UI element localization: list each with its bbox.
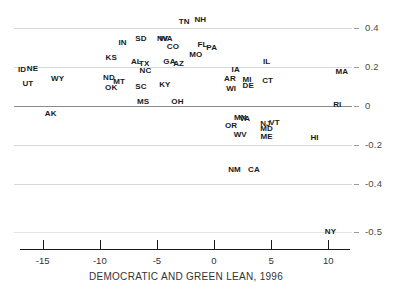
data-point-hi: HI bbox=[310, 134, 318, 142]
data-point-ky: KY bbox=[159, 81, 170, 89]
data-point-ny: NY bbox=[325, 228, 336, 236]
data-point-sc: SC bbox=[135, 83, 146, 91]
data-point-pa: PA bbox=[206, 44, 217, 52]
data-point-ok: OK bbox=[105, 84, 117, 92]
data-point-tn: TN bbox=[179, 18, 190, 26]
y-axis-tick bbox=[354, 28, 359, 29]
data-point-ca: CA bbox=[248, 166, 260, 174]
data-point-ks: KS bbox=[106, 54, 117, 62]
data-point-nc: NC bbox=[140, 67, 152, 75]
data-point-il: IL bbox=[263, 58, 270, 66]
x-axis-tick bbox=[157, 240, 158, 249]
x-axis-tick-label: 0 bbox=[211, 255, 216, 266]
data-point-az: AZ bbox=[173, 60, 184, 68]
x-axis-line bbox=[20, 249, 350, 250]
x-axis-title: DEMOCRATIC AND GREEN LEAN, 1996 bbox=[89, 271, 283, 282]
data-point-mo: MO bbox=[189, 51, 202, 59]
x-axis-tick-label: -5 bbox=[153, 255, 161, 266]
y-axis-tick bbox=[354, 184, 359, 185]
y-axis-tick bbox=[354, 145, 359, 146]
data-point-in: IN bbox=[119, 39, 127, 47]
data-point-ar: AR bbox=[224, 75, 236, 83]
gridline-y-neg0p4 bbox=[14, 184, 352, 185]
data-point-nm: NM bbox=[228, 166, 241, 174]
x-axis-tick bbox=[271, 240, 272, 249]
data-point-wv: WV bbox=[234, 131, 247, 139]
plot-area: 0.40.20-0.2-0.4-0.5TNNHSDINNVWACOFLPAKSM… bbox=[0, 0, 407, 293]
data-point-ri: RI bbox=[333, 101, 341, 109]
scatter-chart: 0.40.20-0.2-0.4-0.5TNNHSDINNVWACOFLPAKSM… bbox=[0, 0, 407, 293]
x-axis-tick-label: -10 bbox=[93, 255, 107, 266]
gridline-y-neg0p5 bbox=[14, 232, 352, 233]
data-point-oh: OH bbox=[171, 98, 183, 106]
y-axis-label: -0.4 bbox=[365, 178, 382, 189]
data-point-ut: UT bbox=[22, 80, 33, 88]
y-axis-tick bbox=[354, 232, 359, 233]
y-axis-label: 0 bbox=[365, 100, 370, 111]
data-point-ak: AK bbox=[45, 110, 57, 118]
y-axis-label: -0.2 bbox=[365, 139, 382, 150]
data-point-ct: CT bbox=[262, 77, 273, 85]
data-point-sd: SD bbox=[135, 35, 146, 43]
y-axis-tick bbox=[354, 67, 359, 68]
data-point-me: ME bbox=[260, 133, 272, 141]
data-point-id: ID bbox=[18, 66, 26, 74]
x-axis-tick-label: 10 bbox=[323, 255, 334, 266]
data-point-ma: MA bbox=[336, 68, 349, 76]
y-axis-label: 0.4 bbox=[365, 22, 379, 33]
data-point-ne: NE bbox=[27, 65, 38, 73]
y-axis-tick bbox=[354, 106, 359, 107]
x-axis-tick-label: 5 bbox=[268, 255, 273, 266]
data-point-de: DE bbox=[243, 82, 254, 90]
x-axis-tick bbox=[328, 240, 329, 249]
data-point-nh: NH bbox=[194, 16, 206, 24]
data-point-va: VA bbox=[239, 115, 250, 123]
data-point-ms: MS bbox=[137, 98, 149, 106]
gridline-y-neg0p2 bbox=[14, 145, 352, 146]
x-axis-tick bbox=[214, 240, 215, 249]
data-point-co: CO bbox=[167, 43, 179, 51]
x-axis-tick-label: -15 bbox=[36, 255, 50, 266]
gridline-y-0 bbox=[14, 106, 352, 107]
data-point-wi: WI bbox=[226, 85, 236, 93]
gridline-y-0p4 bbox=[14, 28, 352, 29]
y-axis-label: 0.2 bbox=[365, 61, 379, 72]
x-axis-tick bbox=[43, 240, 44, 249]
y-axis-label: -0.5 bbox=[365, 226, 382, 237]
data-point-wy: WY bbox=[51, 75, 64, 83]
x-axis-tick bbox=[100, 240, 101, 249]
